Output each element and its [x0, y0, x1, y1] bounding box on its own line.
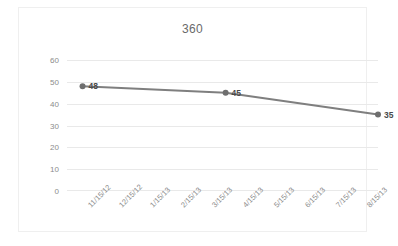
data-point-marker-1: [80, 83, 86, 89]
series-polyline: [83, 86, 378, 114]
data-point-marker-2: [223, 90, 229, 96]
y-tick-label-40: 40: [50, 99, 59, 108]
y-tick-label-30: 30: [50, 121, 59, 130]
y-tick-label-10: 10: [50, 165, 59, 174]
y-tick-label-60: 60: [50, 56, 59, 65]
y-tick-label-20: 20: [50, 143, 59, 152]
data-point-label-1: 48: [89, 81, 98, 91]
data-point-marker-3: [375, 112, 381, 118]
data-point-label-3: 35: [384, 110, 393, 120]
series-line-360: [67, 60, 378, 191]
data-point-label-2: 45: [232, 88, 241, 98]
chart-frame: 360 60 50 40 30 20 10 0 48 45 35 11/15/1…: [18, 7, 367, 232]
plot-area: 48 45 35: [67, 60, 378, 191]
chart-title: 360: [19, 22, 366, 36]
y-axis: 60 50 40 30 20 10 0: [19, 60, 63, 191]
y-tick-label-50: 50: [50, 77, 59, 86]
y-tick-label-0: 0: [55, 187, 59, 196]
